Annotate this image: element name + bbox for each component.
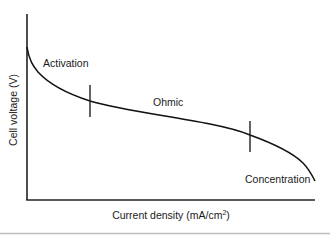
region-label-concentration: Concentration [245,173,311,185]
x-axis-label-end: ) [226,209,230,221]
x-axis-label-main: Current density (mA/cm [112,209,223,221]
region-label-ohmic: Ohmic [153,96,183,108]
polarization-curve-diagram: Activation Ohmic Concentration Cell volt… [0,0,330,235]
region-label-activation: Activation [43,57,89,69]
x-axis-label: Current density (mA/cm2) [112,209,230,221]
y-axis-label: Cell voltage (V) [7,74,19,146]
